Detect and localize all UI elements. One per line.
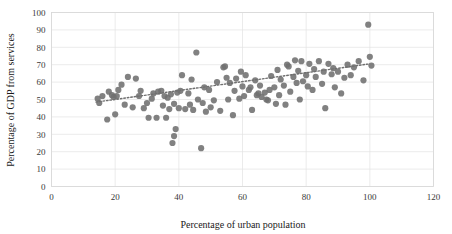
gridlines	[52, 13, 434, 187]
x-axis-title: Percentage of urban population	[180, 219, 305, 230]
y-tick-label: 30	[37, 130, 47, 140]
x-tick-label: 20	[111, 192, 121, 202]
y-tick-label: 90	[37, 25, 47, 35]
x-tick-label: 0	[49, 192, 54, 202]
chart-canvas: 020406080100120 0102030405060708090100 P…	[0, 0, 452, 234]
scatter-chart: 020406080100120 0102030405060708090100 P…	[0, 0, 452, 234]
trendline	[96, 64, 370, 102]
x-tick-label: 80	[302, 192, 312, 202]
x-tick-label: 100	[363, 192, 377, 202]
y-axis-tick-labels: 0102030405060708090100	[32, 8, 46, 192]
y-axis-title: Percentage of GDP from services	[5, 33, 16, 167]
y-tick-label: 0	[41, 182, 46, 192]
x-axis-tick-labels: 020406080100120	[49, 192, 441, 202]
y-tick-label: 40	[37, 112, 47, 122]
x-tick-label: 120	[427, 192, 441, 202]
x-tick-label: 60	[238, 192, 248, 202]
y-tick-label: 70	[37, 60, 47, 70]
y-tick-label: 80	[37, 43, 47, 53]
y-tick-label: 10	[37, 164, 47, 174]
y-tick-label: 20	[37, 147, 47, 157]
y-tick-label: 100	[32, 8, 46, 18]
y-tick-label: 50	[37, 95, 47, 105]
y-tick-label: 60	[37, 77, 47, 87]
x-tick-label: 40	[174, 192, 184, 202]
data-points	[95, 22, 375, 152]
